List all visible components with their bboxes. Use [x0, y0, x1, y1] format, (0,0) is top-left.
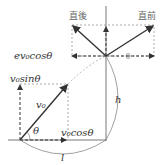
after-velocity-arrow	[73, 26, 106, 56]
v0-arrow	[20, 85, 67, 140]
label-theta: θ	[33, 125, 39, 136]
trajectory-arc	[68, 56, 106, 84]
theta-arc	[27, 132, 30, 140]
label-before: 直前	[138, 10, 156, 21]
label-l: l	[61, 152, 64, 163]
label-ev0cos: ev₀cosθ	[14, 50, 52, 61]
label-v0sin: v₀sinθ	[10, 73, 40, 84]
label-v0cos: v₀cosθ	[61, 127, 93, 138]
label-after: 直後	[69, 10, 87, 21]
label-h: h	[115, 94, 121, 105]
before-velocity-arrow	[106, 26, 153, 56]
label-v0: v₀	[36, 99, 46, 110]
diagram-canvas: 直後 直前 ev₀cosθ v₀sinθ v₀ θ v₀cosθ h l	[0, 0, 166, 165]
